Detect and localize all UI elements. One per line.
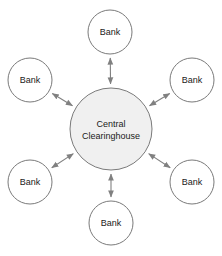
diagram-canvas: Central Clearinghouse Bank Bank Bank Ban… [0,0,222,256]
link-hub-bank-upper-left [52,93,72,105]
hub-label-line1: Central [96,119,125,129]
node-bank-bottom: Bank [89,201,133,245]
node-bank-upper-left: Bank [8,58,52,102]
node-bank-top: Bank [88,10,132,54]
bank-label: Bank [182,177,203,187]
bank-label: Bank [20,177,41,187]
bank-label: Bank [101,218,122,228]
bank-label: Bank [100,27,121,37]
link-hub-bank-lower-left [52,154,74,168]
link-hub-bank-lower-right [149,154,171,168]
node-bank-upper-right: Bank [170,58,214,102]
node-bank-lower-right: Bank [170,160,214,204]
bank-label: Bank [182,75,203,85]
hub-label-line2: Clearinghouse [82,131,140,141]
bank-label: Bank [20,75,41,85]
clearinghouse-diagram: Central Clearinghouse Bank Bank Bank Ban… [0,0,222,256]
hub-circle [70,88,152,170]
hub-node: Central Clearinghouse [70,88,152,170]
link-hub-bank-upper-right [150,93,170,105]
node-bank-lower-left: Bank [8,160,52,204]
